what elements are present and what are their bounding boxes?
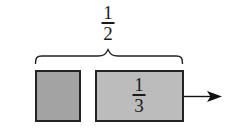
box-fraction-label: 1 3: [133, 76, 146, 114]
box-fraction-numerator: 1: [134, 76, 144, 93]
box-fraction-denominator: 3: [134, 97, 144, 114]
fraction-diagram: 1 2 1 3: [0, 0, 245, 129]
curly-brace-icon: [36, 50, 183, 65]
small-shaded-box: [35, 70, 81, 122]
